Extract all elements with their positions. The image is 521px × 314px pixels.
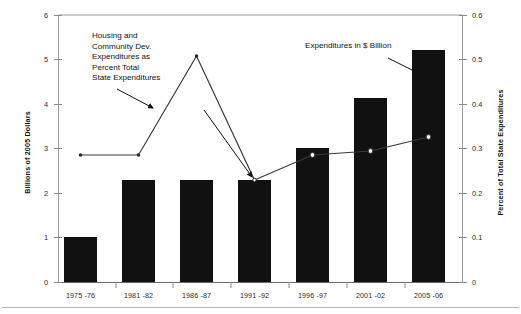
bar-1996-97 <box>296 148 329 282</box>
y-right-tick-02: 0.2 <box>472 189 498 198</box>
y-right-tick-05: 0.5 <box>472 55 498 64</box>
y-left-tick-4: 4 <box>26 100 48 109</box>
chart-figure: Billions of 2005 Dollars Percent of Tota… <box>0 0 521 314</box>
y-left-tick-0: 0 <box>26 278 48 287</box>
bottom-divider <box>2 307 519 308</box>
y-right-tick-04: 0.4 <box>472 100 498 109</box>
x-axis-label-2001-02: 2001 -02 <box>340 291 401 300</box>
bar-1981-82 <box>122 180 155 282</box>
bar-1975-76 <box>64 237 97 282</box>
y-right-tick-01: 0.1 <box>472 233 498 242</box>
y-right-tick-06: 0.6 <box>472 11 498 20</box>
x-axis-label-1981-82: 1981 -82 <box>108 291 169 300</box>
line-point-2005-06 <box>426 135 431 140</box>
y-left-tick-1: 1 <box>26 233 48 242</box>
line-point-1981-82 <box>137 153 141 157</box>
arrow-percent-to-point <box>204 110 252 177</box>
y-right-tick-03: 0.3 <box>472 144 498 153</box>
y-right-tick-0: 0 <box>472 278 498 287</box>
y-left-tick-6: 6 <box>26 11 48 20</box>
y-left-tick-2: 2 <box>26 189 48 198</box>
line-point-1996-97 <box>310 153 315 158</box>
line-point-1991-92 <box>253 178 257 182</box>
bar-1991-92 <box>238 180 271 282</box>
x-axis-label-1975-76: 1975 -76 <box>50 291 111 300</box>
bar-2005-06 <box>412 50 445 282</box>
line-point-2001-02 <box>368 149 373 154</box>
y-left-tick-5: 5 <box>26 55 48 64</box>
arrow-percent-line <box>117 89 153 108</box>
x-axis-label-2005-06: 2005 -06 <box>398 291 459 300</box>
y-left-tick-3: 3 <box>26 144 48 153</box>
line-point-1975-76 <box>79 153 83 157</box>
x-axis-label-1986-87: 1986 -87 <box>166 291 227 300</box>
annotation-expenditures-billion: Expenditures in $ Billion <box>305 41 455 52</box>
bar-2001-02 <box>354 98 387 282</box>
bar-series <box>64 50 445 282</box>
x-axis-label-1991-92: 1991 -92 <box>224 291 285 300</box>
x-axis-label-1996-97: 1996 -97 <box>282 291 343 300</box>
bar-1986-87 <box>180 180 213 282</box>
annotation-percent-line: Housing and Community Dev. Expenditures … <box>92 31 202 84</box>
